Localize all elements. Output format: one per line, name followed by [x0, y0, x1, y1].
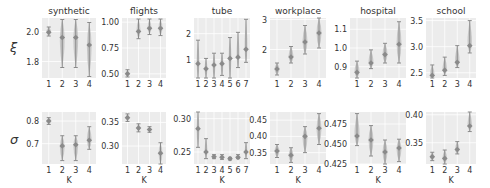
y-tick-label: 0.8 — [26, 117, 39, 126]
y-tick-label: 1.00 — [101, 18, 119, 27]
x-tick-label: 6 — [235, 166, 240, 175]
x-tick-label: 4 — [219, 80, 224, 89]
x-axis-label: K — [141, 176, 147, 185]
x-tick-label: 3 — [73, 80, 78, 89]
subplot-title: synthetic — [48, 6, 90, 16]
y-tick-label: 3 — [262, 16, 267, 25]
y-tick-label: 2.0 — [26, 28, 39, 37]
y-tick-label: 3.5 — [410, 17, 423, 26]
x-tick-label: 3 — [455, 80, 460, 89]
x-tick-label: 4 — [396, 80, 401, 89]
subplot-title: tube — [212, 6, 233, 16]
x-tick-label: 1 — [354, 80, 359, 89]
subplot-title: workplace — [275, 6, 321, 16]
x-tick-label: 1 — [46, 166, 51, 175]
x-tick-label: 4 — [316, 80, 321, 89]
x-tick-label: 3 — [382, 166, 387, 175]
y-tick-label: 3.0 — [410, 43, 423, 52]
x-tick-label: 3 — [211, 166, 216, 175]
row-label-sigma: σ — [10, 132, 19, 147]
x-tick-label: 7 — [243, 80, 248, 89]
y-tick-label: 0.75 — [101, 44, 119, 53]
y-tick-label: 0.475 — [324, 120, 347, 129]
x-tick-label: 1 — [430, 80, 435, 89]
x-tick-label: 1 — [195, 80, 200, 89]
subplot-title: hospital — [360, 6, 396, 16]
figure: 1.82.01234synthetic0.500.751.001234fligh… — [0, 0, 490, 188]
subplot-flights — [122, 18, 166, 78]
x-tick-label: 3 — [73, 166, 78, 175]
x-tick-label: 4 — [316, 166, 321, 175]
x-tick-label: 7 — [243, 166, 248, 175]
y-tick-label: 1.8 — [26, 58, 39, 67]
y-tick-label: 0.40 — [249, 132, 267, 141]
subplot-sigma-4 — [350, 112, 406, 164]
x-tick-label: 4 — [467, 166, 472, 175]
x-axis-label: K — [375, 176, 381, 185]
x-axis-label: K — [219, 176, 225, 185]
x-tick-label: 1 — [125, 80, 130, 89]
subplot-school — [426, 18, 476, 78]
x-tick-label: 2 — [288, 166, 293, 175]
x-tick-label: 3 — [302, 80, 307, 89]
y-tick-label: 0.35 — [101, 118, 119, 127]
y-tick-label: 1.1 — [334, 25, 347, 34]
x-tick-label: 4 — [87, 166, 92, 175]
x-tick-label: 6 — [235, 80, 240, 89]
x-tick-label: 1 — [274, 166, 279, 175]
x-tick-label: 3 — [455, 166, 460, 175]
x-tick-label: 4 — [396, 166, 401, 175]
x-tick-label: 2 — [442, 80, 447, 89]
x-tick-label: 2 — [136, 80, 141, 89]
x-tick-label: 2 — [136, 166, 141, 175]
x-tick-label: 2 — [60, 166, 65, 175]
x-tick-label: 2 — [60, 80, 65, 89]
x-tick-label: 1 — [430, 166, 435, 175]
y-tick-label: 1.0 — [334, 44, 347, 53]
y-tick-label: 2.5 — [410, 69, 423, 78]
y-tick-label: 0.40 — [405, 111, 423, 120]
x-tick-label: 4 — [219, 166, 224, 175]
subplot-synthetic — [42, 18, 96, 78]
subplot-sigma-5 — [426, 112, 476, 164]
x-tick-label: 2 — [442, 166, 447, 175]
x-tick-label: 1 — [274, 80, 279, 89]
x-tick-label: 1 — [354, 166, 359, 175]
subplot-title: school — [437, 6, 466, 16]
y-tick-label: 0.7 — [26, 140, 39, 149]
x-tick-label: 2 — [203, 166, 208, 175]
x-tick-label: 3 — [147, 166, 152, 175]
x-tick-label: 4 — [87, 80, 92, 89]
x-tick-label: 1 — [195, 166, 200, 175]
x-tick-label: 3 — [302, 166, 307, 175]
x-axis-label: K — [448, 176, 454, 185]
y-tick-label: 0.425 — [324, 160, 347, 169]
x-tick-label: 3 — [211, 80, 216, 89]
x-tick-label: 4 — [158, 80, 163, 89]
x-tick-label: 4 — [158, 166, 163, 175]
x-axis-label: K — [295, 176, 301, 185]
y-tick-label: 0.30 — [173, 115, 191, 124]
subplot-sigma-1 — [122, 112, 166, 164]
y-tick-label: 0.9 — [334, 63, 347, 72]
x-tick-label: 5 — [227, 80, 232, 89]
subplot-sigma-2 — [194, 112, 250, 164]
subplot-hospital — [350, 18, 406, 78]
y-tick-label: 0.35 — [405, 139, 423, 148]
y-tick-label: 1 — [186, 56, 191, 65]
y-tick-label: 0.45 — [249, 116, 267, 125]
x-tick-label: 5 — [227, 166, 232, 175]
x-tick-label: 2 — [368, 80, 373, 89]
subplot-sigma-3 — [270, 112, 326, 164]
x-tick-label: 2 — [288, 80, 293, 89]
y-tick-label: 2 — [186, 30, 191, 39]
x-tick-label: 3 — [147, 80, 152, 89]
subplot-sigma-0 — [42, 112, 96, 164]
y-tick-label: 2 — [262, 46, 267, 55]
y-tick-label: 0.35 — [249, 149, 267, 158]
x-tick-label: 4 — [467, 80, 472, 89]
x-tick-label: 3 — [382, 80, 387, 89]
y-tick-label: 0.450 — [324, 140, 347, 149]
y-tick-label: 0.50 — [101, 70, 119, 79]
subplot-title: flights — [130, 6, 158, 16]
